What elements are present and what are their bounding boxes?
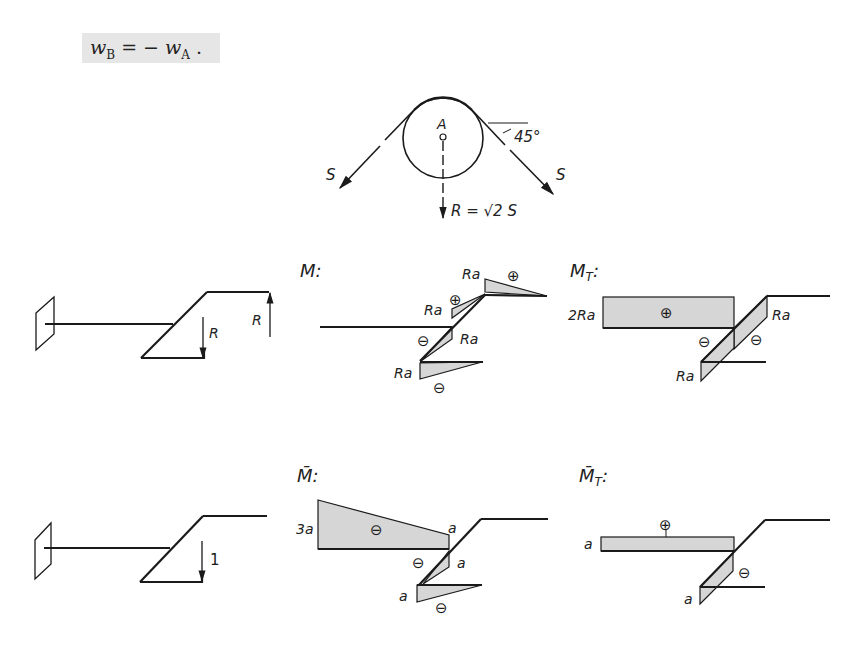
moment-diagram-Mbar: M̄: 3a a a a ⊖ ⊖ ⊖	[296, 465, 548, 617]
load-down-label: R	[209, 325, 219, 341]
M-sign-1: ⊕	[507, 267, 520, 285]
unit-load-label: 1	[210, 551, 220, 569]
MT-title: MT:	[570, 260, 599, 284]
structure-loaded: R R	[36, 292, 270, 358]
MTbar-sign-1: ⊕	[659, 516, 672, 534]
MTbar-sign-2: ⊖	[738, 564, 751, 582]
torsion-diagram-MT: MT: 2Ra Ra Ra ⊕ ⊖ ⊖	[568, 260, 830, 384]
right-force-label: S	[556, 166, 566, 184]
Mbar-title: M̄:	[297, 465, 319, 486]
pulley-center-label: A	[436, 116, 447, 132]
structure-unit-load: 1	[35, 516, 267, 582]
rope-left	[385, 110, 414, 140]
rope-right-ext	[510, 150, 553, 194]
Mbar-label-3: a	[457, 555, 466, 571]
Mbar-label-2: a	[448, 520, 457, 536]
M-label-1: Ra	[462, 266, 480, 282]
MT-sign-2: ⊖	[698, 333, 711, 351]
MT-label-2: Ra	[772, 307, 790, 323]
torsion-diagram-MTbar: M̄T: a a ⊕ ⊖	[579, 465, 830, 607]
rope-left-ext	[340, 146, 380, 188]
MTbar-label-1: a	[584, 536, 593, 552]
angle-label: 45°	[514, 128, 541, 146]
Mbar-label-1: 3a	[296, 521, 314, 537]
wall-support-2	[35, 523, 51, 579]
Mbar-label-4: a	[399, 588, 408, 604]
Mbar-sign-2: ⊖	[412, 554, 425, 572]
MT-sign-3: ⊖	[750, 331, 763, 349]
MT-label-3: Ra	[676, 368, 694, 384]
moment-diagram-M: M: Ra Ra Ra Ra ⊕ ⊕ ⊖ ⊖	[300, 260, 547, 397]
M-sign-3: ⊖	[417, 332, 430, 350]
load-up-label: R	[252, 312, 262, 328]
pulley-figure: 45° A S S R = √2 S	[326, 98, 566, 220]
MT-label-1: 2Ra	[568, 307, 595, 323]
M-label-3: Ra	[460, 331, 478, 347]
pulley-center	[440, 134, 446, 140]
angle-marker	[503, 129, 511, 133]
rope-right	[472, 110, 505, 145]
M-label-2: Ra	[424, 302, 442, 318]
Mbar-sign-3: ⊖	[435, 599, 448, 617]
M-title: M:	[300, 260, 322, 281]
resultant-label: R = √2 S	[451, 202, 517, 220]
M-sign-2: ⊕	[449, 291, 462, 309]
left-force-label: S	[326, 166, 336, 184]
MT-sign-1: ⊕	[660, 304, 673, 322]
MTbar-label-2: a	[684, 591, 693, 607]
rope-top	[414, 98, 472, 110]
diagram-canvas: 45° A S S R = √2 S R R M: Ra Ra Ra R	[0, 0, 863, 645]
M-sign-4: ⊖	[433, 379, 446, 397]
MTbar-title: M̄T:	[579, 465, 608, 489]
M-label-4: Ra	[394, 365, 412, 381]
Mbar-sign-1: ⊖	[370, 521, 383, 539]
